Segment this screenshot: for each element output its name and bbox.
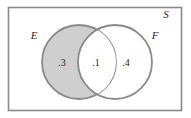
venn-diagram-canvas: S E F .3 .1 .4 xyxy=(0,0,191,118)
region-value-right-only: .4 xyxy=(122,57,130,68)
region-value-intersection: .1 xyxy=(92,57,100,68)
venn-diagram-figure: S E F .3 .1 .4 xyxy=(0,0,191,118)
set-f-label: F xyxy=(151,29,159,41)
universal-set-label: S xyxy=(163,8,169,20)
set-e-label: E xyxy=(30,29,38,41)
region-value-left-only: .3 xyxy=(58,57,66,68)
